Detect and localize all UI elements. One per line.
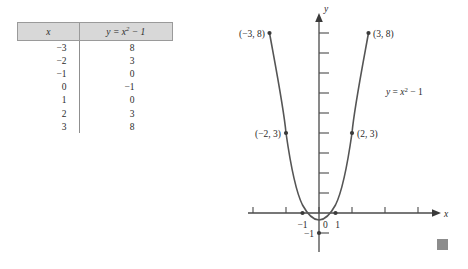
point-0-neg1 <box>317 231 321 235</box>
curve-equation-label: y = x2 − 1 <box>385 86 423 98</box>
point-neg3-8 <box>267 31 271 35</box>
value-table: x y = x2 − 1 −38−23−100−1102338 <box>17 22 173 133</box>
point-label-2-3: (2, 3) <box>357 129 378 140</box>
end-of-example-square <box>437 239 448 250</box>
table-header-row: x y = x2 − 1 <box>18 23 173 41</box>
table-header: x y = x2 − 1 <box>18 23 173 41</box>
table-row: −38 <box>18 41 173 55</box>
cell-y: −1 <box>79 81 172 94</box>
table-row: 38 <box>18 120 173 133</box>
header-y-tail: − 1 <box>129 28 145 38</box>
point-3-8 <box>366 31 370 35</box>
curve-eq-tail: − 1 <box>408 87 423 97</box>
table-row: 23 <box>18 107 173 120</box>
y-tick-label-neg1: −1 <box>304 229 314 239</box>
cell-x: −3 <box>18 41 80 55</box>
header-y-eq: = <box>111 28 122 38</box>
table-row: −23 <box>18 54 173 67</box>
point-2-3 <box>350 131 354 135</box>
point-label-neg3-8: (−3, 8) <box>239 29 265 40</box>
curve-eq-equals: = <box>390 87 400 97</box>
cell-x: −2 <box>18 54 80 67</box>
graph-panel: x y 0 −1 1 −1 (−3, 8) (3, 8) (−2, 3) (2,… <box>220 0 468 269</box>
cell-x: 2 <box>18 107 80 120</box>
origin-label: 0 <box>323 220 328 230</box>
cell-y: 3 <box>79 54 172 67</box>
parabola-graph: x y 0 −1 1 −1 (−3, 8) (3, 8) (−2, 3) (2,… <box>220 0 468 269</box>
table-row: 10 <box>18 94 173 107</box>
point-neg2-3 <box>284 131 288 135</box>
cell-x: −1 <box>18 67 80 80</box>
table-row: −10 <box>18 67 173 80</box>
cell-y: 0 <box>79 67 172 80</box>
point-1-0 <box>333 211 337 215</box>
table-body: −38−23−100−1102338 <box>18 41 173 134</box>
cell-x: 0 <box>18 81 80 94</box>
point-neg1-0 <box>300 211 304 215</box>
x-tick-label-1: 1 <box>335 220 340 230</box>
y-axis-arrowhead <box>315 13 323 22</box>
table-row: 0−1 <box>18 81 173 94</box>
cell-x: 1 <box>18 94 80 107</box>
cell-y: 3 <box>79 107 172 120</box>
cell-y: 8 <box>79 120 172 133</box>
cell-y: 8 <box>79 41 172 55</box>
point-label-neg2-3: (−2, 3) <box>255 129 281 140</box>
point-label-3-8: (3, 8) <box>373 29 394 40</box>
x-axis-arrowhead <box>432 209 441 217</box>
y-axis-label: y <box>323 4 329 14</box>
x-axis-label: x <box>443 209 449 219</box>
table-header-x: x <box>18 23 80 41</box>
cell-y: 0 <box>79 94 172 107</box>
xy-table: x y = x2 − 1 −38−23−100−1102338 <box>17 22 173 133</box>
cell-x: 3 <box>18 120 80 133</box>
y-tick-marks <box>319 33 329 233</box>
table-header-y: y = x2 − 1 <box>79 23 172 41</box>
